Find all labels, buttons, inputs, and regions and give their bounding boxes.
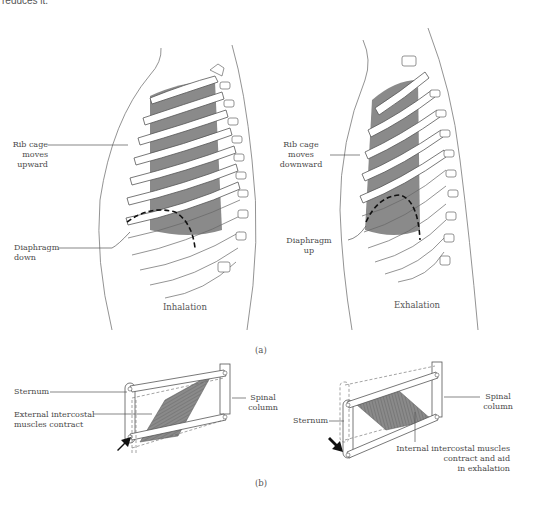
label-sternum-right: Sternum xyxy=(293,416,328,426)
label-rib-cage-downward: Rib cage moves downward xyxy=(270,140,332,170)
label-spinal-column-left: Spinal column xyxy=(244,393,282,413)
label-diaphragm-up: Diaphragm up xyxy=(284,236,334,256)
caption-a: (a) xyxy=(255,345,267,355)
label-rib-cage-upward: Rib cage moves upward xyxy=(2,140,48,170)
label-sternum-left: Sternum xyxy=(14,387,49,397)
label-diaphragm-down: Diaphragm down xyxy=(14,243,59,263)
exhalation-figure xyxy=(330,28,478,330)
caption-b: (b) xyxy=(255,478,267,488)
label-spinal-column-right: Spinal column xyxy=(478,392,518,412)
respiration-diagram xyxy=(0,0,534,516)
label-internal-intercostal: Internal intercostal muscles contract an… xyxy=(390,444,510,474)
title-inhalation: Inhalation xyxy=(163,302,207,312)
inhalation-figure xyxy=(48,45,256,330)
label-external-intercostal: External intercostal muscles contract xyxy=(14,410,95,430)
title-exhalation: Exhalation xyxy=(394,300,440,310)
